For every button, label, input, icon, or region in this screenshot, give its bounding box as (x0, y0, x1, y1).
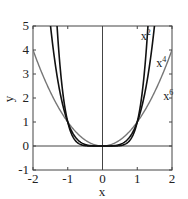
y-tick-label: 1 (23, 114, 30, 129)
y-tick-label: 5 (23, 18, 30, 33)
y-tick-label: 2 (23, 90, 30, 105)
y-tick-label: 4 (23, 42, 30, 57)
chart: -2-1012-1012345 x2x4x6 x y (0, 0, 188, 199)
x-tick-label: 1 (134, 171, 141, 186)
y-tick-label: 3 (23, 66, 30, 81)
x-axis-label: x (99, 184, 106, 199)
x-tick-label: 2 (169, 171, 176, 186)
y-tick-label: -1 (18, 162, 29, 177)
curve-label-x2: x2 (141, 28, 151, 43)
y-axis-label: y (1, 95, 16, 102)
x-tick-label: -2 (28, 171, 39, 186)
x-tick-label: -1 (62, 171, 73, 186)
y-tick-label: 0 (23, 138, 30, 153)
